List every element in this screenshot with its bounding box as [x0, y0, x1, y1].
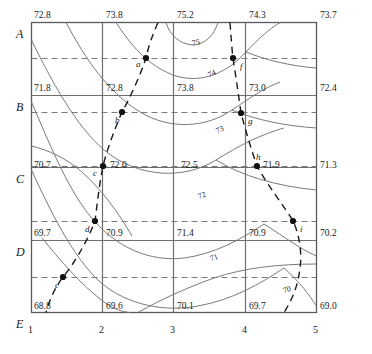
cell-value-E2: 69.6	[106, 302, 123, 312]
cell-value-C5: 71.3	[320, 161, 337, 171]
point-label-e: e	[55, 281, 59, 290]
cell-value-E5: 69.0	[320, 302, 337, 312]
col-label-1: 1	[28, 325, 33, 335]
cell-value-A5: 73.7	[320, 11, 337, 21]
row-label-A: A	[16, 28, 23, 40]
point-label-b: b	[115, 116, 120, 125]
cell-value-B5: 72.4	[320, 84, 337, 94]
cell-value-E1: 68.8	[34, 302, 51, 312]
row-label-C: C	[16, 173, 24, 185]
marked-point-d[interactable]	[92, 218, 98, 224]
cell-value-D2: 70.9	[106, 229, 123, 239]
marked-point-h[interactable]	[254, 163, 260, 169]
cell-value-B2: 72.8	[106, 84, 123, 94]
point-label-a: a	[136, 60, 141, 69]
contour-map-figure: A B C D E 1 2 3 4 5 72.8 73.8 75.2 74.3 …	[0, 0, 372, 354]
cell-value-E3: 70.1	[177, 302, 194, 312]
cell-value-A2: 73.8	[106, 11, 123, 21]
point-label-d: d	[85, 225, 90, 234]
cell-value-B4: 73.0	[249, 84, 266, 94]
point-label-f: f	[240, 62, 243, 71]
cell-value-D4: 70.9	[249, 229, 266, 239]
point-label-c: c	[93, 169, 97, 178]
marked-point-e[interactable]	[60, 274, 66, 280]
col-label-2: 2	[99, 325, 104, 335]
marked-point-a[interactable]	[143, 55, 149, 61]
cell-value-C2: 72.0	[110, 161, 127, 171]
col-label-4: 4	[242, 325, 247, 335]
cell-value-C3: 72.5	[181, 161, 198, 171]
marked-point-f[interactable]	[230, 55, 236, 61]
cell-value-D1: 69.7	[34, 229, 51, 239]
cell-value-B3: 73.8	[177, 84, 194, 94]
row-label-D: D	[16, 246, 25, 258]
cell-value-D3: 71.4	[177, 229, 194, 239]
cell-value-C4: 71.9	[263, 161, 280, 171]
cell-value-B1: 71.8	[34, 84, 51, 94]
marked-point-c[interactable]	[100, 163, 106, 169]
contour-line-74-right	[246, 52, 317, 68]
cell-value-A3: 75.2	[177, 11, 194, 21]
point-label-i: i	[300, 225, 303, 234]
contour-line-74	[116, 23, 280, 79]
contour-line-72	[32, 40, 285, 173]
col-label-5: 5	[313, 325, 318, 335]
point-label-h: h	[256, 153, 261, 162]
contour-label-75: 75	[191, 38, 200, 47]
row-label-E: E	[16, 318, 23, 330]
cell-value-C1: 70.7	[34, 161, 51, 171]
marked-point-i[interactable]	[290, 218, 296, 224]
col-label-3: 3	[170, 325, 175, 335]
cell-value-A1: 72.8	[34, 11, 51, 21]
cell-value-A4: 74.3	[249, 11, 266, 21]
contour-line-70	[32, 170, 285, 308]
contour-line-71	[32, 102, 265, 259]
marked-point-g[interactable]	[238, 110, 244, 116]
row-label-B: B	[16, 101, 23, 113]
point-label-g: g	[248, 117, 253, 126]
cell-value-E4: 69.7	[249, 302, 266, 312]
cell-value-D5: 70.2	[320, 229, 337, 239]
